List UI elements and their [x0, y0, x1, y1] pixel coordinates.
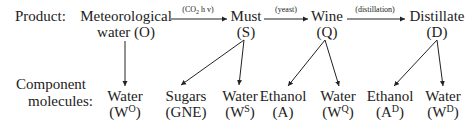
component-water-s: Water(WS) [222, 88, 257, 120]
transition-label-yeast: (yeast) [275, 5, 297, 14]
component-water-q: Water(WQ) [320, 88, 355, 120]
product-row-label: Product: [15, 8, 66, 24]
component-row-label-1: Component [16, 76, 86, 92]
transition-label-distillation: (distillation) [355, 5, 395, 14]
product-wine: Wine (Q) [311, 8, 343, 40]
component-sugars: Sugars(GNE) [166, 88, 207, 120]
product-must: Must (S) [231, 8, 262, 40]
component-water-o: Water(WO) [107, 88, 142, 120]
component-row-label-2: molecules: [28, 93, 93, 109]
wine-production-diagram: Product: Component molecules: Meteorolog… [0, 0, 476, 124]
component-water-d: Water(WD) [425, 88, 460, 120]
product-meteorological-water: Meteorological water (O) [80, 8, 172, 40]
component-ethanol-a: Ethanol(A) [260, 88, 307, 120]
component-ethanol-d: Ethanol(AD) [367, 88, 414, 120]
transition-label-co2: (CO2 h v) [182, 5, 213, 14]
product-distillate: Distillate (D) [410, 8, 465, 40]
